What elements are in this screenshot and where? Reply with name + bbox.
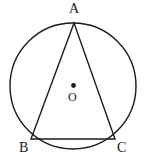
center-label-o: O <box>68 91 77 103</box>
geometry-figure: A B C O <box>0 0 146 162</box>
geometry-canvas <box>0 0 146 162</box>
vertex-label-b: B <box>19 141 28 155</box>
vertex-label-c: C <box>117 141 126 155</box>
vertex-label-a: A <box>69 2 79 16</box>
circle-center-dot <box>71 83 76 88</box>
